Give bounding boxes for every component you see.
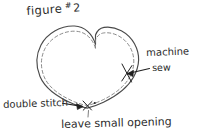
figure-word: figure (26, 2, 63, 18)
figure-number: 2 (73, 1, 81, 14)
annotation-sew: sew (152, 63, 171, 73)
opening-leader-line (88, 111, 89, 118)
annotation-machine: machine (146, 46, 189, 57)
annotation-leave-small-opening: leave small opening (61, 116, 172, 130)
hash-symbol: # (65, 1, 73, 10)
